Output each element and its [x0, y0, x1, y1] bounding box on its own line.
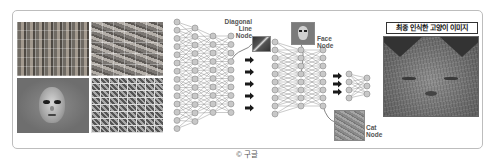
copyright-caption: © 구글 — [0, 148, 494, 159]
cat-left-ear — [383, 37, 422, 57]
diagonal-line-node-label: Diagonal Line Node — [216, 18, 252, 39]
cat-right-eye — [444, 77, 458, 80]
face-shape — [298, 26, 308, 40]
training-image-collage — [17, 22, 163, 133]
mouth — [48, 114, 56, 116]
diagonal-line-node-text: Diagonal Line Node — [225, 18, 252, 39]
right-eye — [54, 100, 61, 104]
face-node-image — [291, 22, 315, 45]
face-node-label: Face Node — [317, 35, 347, 49]
final-image-title: 최종 인식한 고양이 이미지 — [386, 22, 478, 34]
cat-node-text: Cat Node — [366, 124, 382, 138]
face-shape — [39, 87, 65, 123]
average-face-image — [17, 78, 89, 133]
face-node-text: Face Node — [317, 35, 333, 49]
cat-photos-grid — [91, 22, 163, 76]
diagonal-line-node-image — [252, 36, 271, 52]
cat-node-label: Cat Node — [366, 124, 390, 138]
cat-right-ear — [440, 37, 479, 57]
cat-node-image — [334, 110, 365, 141]
final-cat-image — [383, 36, 479, 117]
left-eye — [43, 100, 50, 104]
cat-nose — [425, 91, 437, 96]
feature-patches-grid — [91, 78, 163, 133]
face-photos-grid — [17, 22, 89, 76]
nose — [50, 106, 54, 111]
cat-left-eye — [402, 77, 416, 80]
